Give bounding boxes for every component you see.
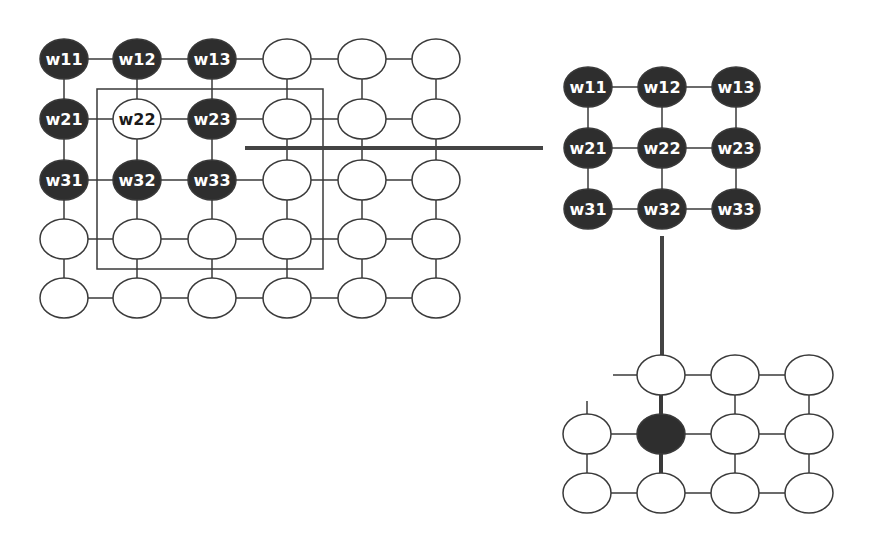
weight-node-w21: w21 bbox=[40, 99, 88, 139]
kernel-node-w11: w11 bbox=[564, 67, 612, 107]
node-ellipse bbox=[412, 160, 460, 200]
input-node bbox=[412, 160, 460, 200]
node-ellipse bbox=[263, 99, 311, 139]
output-node bbox=[785, 473, 833, 513]
node-label: w33 bbox=[193, 171, 230, 190]
node-ellipse bbox=[188, 278, 236, 318]
weight-node-w31: w31 bbox=[40, 160, 88, 200]
node-ellipse bbox=[785, 355, 833, 395]
node-ellipse bbox=[113, 219, 161, 259]
node-ellipse bbox=[113, 278, 161, 318]
node-label: w11 bbox=[569, 78, 606, 97]
node-ellipse bbox=[711, 473, 759, 513]
node-ellipse bbox=[785, 414, 833, 454]
output-node bbox=[563, 414, 611, 454]
node-ellipse bbox=[563, 414, 611, 454]
node-label: w33 bbox=[717, 200, 754, 219]
input-node bbox=[412, 278, 460, 318]
kernel-node-w21: w21 bbox=[564, 128, 612, 168]
input-node bbox=[412, 219, 460, 259]
input-node bbox=[113, 219, 161, 259]
weight-node-w22: w22 bbox=[113, 99, 161, 139]
node-ellipse bbox=[263, 39, 311, 79]
output-node bbox=[637, 355, 685, 395]
weight-node-w12: w12 bbox=[113, 39, 161, 79]
weight-node-w13: w13 bbox=[188, 39, 236, 79]
input-node bbox=[338, 160, 386, 200]
output-node-highlighted bbox=[637, 414, 685, 454]
input-node bbox=[338, 219, 386, 259]
input-node bbox=[40, 278, 88, 318]
output-node bbox=[711, 355, 759, 395]
node-ellipse bbox=[263, 219, 311, 259]
input-node bbox=[188, 278, 236, 318]
convolution-diagram: w11w12w13w21w22w23w31w32w33 w11w12w13w21… bbox=[0, 0, 881, 536]
node-ellipse bbox=[711, 414, 759, 454]
node-ellipse bbox=[40, 219, 88, 259]
input-node bbox=[113, 278, 161, 318]
input-node bbox=[263, 99, 311, 139]
node-ellipse bbox=[637, 414, 685, 454]
node-ellipse bbox=[711, 355, 759, 395]
kernel-node-w23: w23 bbox=[712, 128, 760, 168]
node-label: w32 bbox=[643, 200, 680, 219]
input-node bbox=[338, 99, 386, 139]
node-label: w23 bbox=[717, 139, 754, 158]
input-node bbox=[412, 39, 460, 79]
input-node bbox=[338, 39, 386, 79]
node-label: w32 bbox=[118, 171, 155, 190]
node-ellipse bbox=[263, 278, 311, 318]
node-ellipse bbox=[338, 99, 386, 139]
node-label: w23 bbox=[193, 110, 230, 129]
node-label: w22 bbox=[643, 139, 680, 158]
node-ellipse bbox=[637, 473, 685, 513]
output-node bbox=[637, 473, 685, 513]
node-label: w31 bbox=[569, 200, 606, 219]
kernel-node-w32: w32 bbox=[638, 189, 686, 229]
input-grid-nodes: w11w12w13w21w22w23w31w32w33 bbox=[40, 39, 460, 318]
kernel-nodes: w11w12w13w21w22w23w31w32w33 bbox=[564, 67, 760, 229]
node-ellipse bbox=[40, 278, 88, 318]
node-ellipse bbox=[785, 473, 833, 513]
node-label: w22 bbox=[118, 110, 155, 129]
node-label: w11 bbox=[45, 50, 82, 69]
node-ellipse bbox=[338, 278, 386, 318]
node-ellipse bbox=[412, 39, 460, 79]
output-node bbox=[711, 414, 759, 454]
input-node bbox=[412, 99, 460, 139]
node-ellipse bbox=[338, 160, 386, 200]
kernel-node-w33: w33 bbox=[712, 189, 760, 229]
input-node bbox=[263, 278, 311, 318]
kernel-node-w31: w31 bbox=[564, 189, 612, 229]
output-node bbox=[785, 414, 833, 454]
node-label: w13 bbox=[193, 50, 230, 69]
output-node bbox=[785, 355, 833, 395]
node-ellipse bbox=[338, 219, 386, 259]
kernel-node-w12: w12 bbox=[638, 67, 686, 107]
node-label: w13 bbox=[717, 78, 754, 97]
weight-node-w23: w23 bbox=[188, 99, 236, 139]
node-label: w31 bbox=[45, 171, 82, 190]
node-ellipse bbox=[412, 219, 460, 259]
node-label: w12 bbox=[118, 50, 155, 69]
node-label: w21 bbox=[45, 110, 82, 129]
node-label: w21 bbox=[569, 139, 606, 158]
node-ellipse bbox=[637, 355, 685, 395]
node-label: w12 bbox=[643, 78, 680, 97]
node-ellipse bbox=[188, 219, 236, 259]
kernel-node-w22: w22 bbox=[638, 128, 686, 168]
output-grid-edges bbox=[587, 375, 809, 493]
node-ellipse bbox=[263, 160, 311, 200]
node-ellipse bbox=[412, 99, 460, 139]
weight-node-w33: w33 bbox=[188, 160, 236, 200]
input-node bbox=[40, 219, 88, 259]
node-ellipse bbox=[563, 473, 611, 513]
weight-node-w11: w11 bbox=[40, 39, 88, 79]
input-node bbox=[263, 219, 311, 259]
input-node bbox=[263, 160, 311, 200]
input-node bbox=[338, 278, 386, 318]
output-node bbox=[711, 473, 759, 513]
input-node bbox=[188, 219, 236, 259]
node-ellipse bbox=[338, 39, 386, 79]
output-node bbox=[563, 473, 611, 513]
